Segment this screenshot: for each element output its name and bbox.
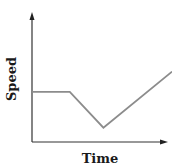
line-chart — [0, 0, 172, 166]
y-axis-arrow-icon — [30, 12, 35, 20]
x-axis-arrow-icon — [160, 140, 168, 145]
x-axis-label: Time — [82, 151, 119, 166]
y-axis — [30, 12, 35, 142]
y-axis-label: Speed — [4, 57, 19, 101]
speed-series-line — [32, 72, 172, 128]
x-axis — [32, 140, 168, 145]
